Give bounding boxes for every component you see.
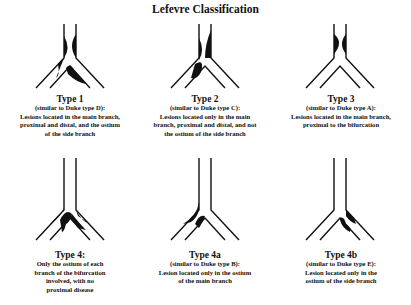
caption-line: Lesion located only in the ostium xyxy=(135,269,275,278)
type-label: Type 4a xyxy=(135,250,275,260)
caption-line: (similar to Duke type D): xyxy=(0,104,140,113)
lesion-main-proximal-left xyxy=(334,34,339,54)
lesion-side-ostium-right xyxy=(70,214,86,230)
caption-type-1: Type 1 (similar to Duke type D): Lesions… xyxy=(0,94,140,138)
vessel-type-1 xyxy=(30,24,110,92)
lesion-side-ostium xyxy=(66,65,86,84)
caption-line: proximal disease xyxy=(0,286,140,295)
lesion-side-ostium-outer xyxy=(346,210,356,224)
caption-line: branch of the bifurcation xyxy=(0,269,140,278)
lesion-main-distal xyxy=(205,30,211,58)
caption-line: proximal and distal, and the ostium xyxy=(0,121,140,130)
caption-line: (similar to Duke type A): xyxy=(271,104,411,113)
lesion-main-ostium xyxy=(56,58,64,78)
lesion-main-distal xyxy=(72,34,76,58)
caption-type-2: Type 2 (similar to Duke type C): Lesions… xyxy=(135,94,275,138)
vessel-type-4a xyxy=(165,158,245,246)
type-label: Type 2 xyxy=(135,94,275,104)
vessel-type-4 xyxy=(30,158,110,246)
vessel-walls xyxy=(36,24,104,88)
caption-line: Lesion located only in the xyxy=(271,269,411,278)
caption-line: Lesions located only in the main xyxy=(135,113,275,122)
type-label: Type 1 xyxy=(0,94,140,104)
caption-line: (similar to Duke type C): xyxy=(135,104,275,113)
vessel-walls xyxy=(171,24,239,88)
caption-line: Lesions located in the main branch, xyxy=(271,113,411,122)
type-label: Type 4: xyxy=(0,250,140,260)
caption-line: proximal to the bifurcation xyxy=(271,121,411,130)
caption-line: of the side branch xyxy=(0,130,140,139)
vessel-walls xyxy=(306,158,374,240)
lesion-main-proximal-right xyxy=(342,34,346,54)
caption-line: (similar to Duke type E): xyxy=(271,260,411,269)
caption-type-4: Type 4: Only the ostium of each branch o… xyxy=(0,250,140,294)
caption-type-3: Type 3 (similar to Duke type A): Lesions… xyxy=(271,94,411,130)
vessel-walls xyxy=(306,24,374,88)
lesion-main-proximal xyxy=(64,36,68,58)
vessel-type-2 xyxy=(165,24,245,92)
lesion-side-ostium-inner xyxy=(340,218,351,232)
caption-type-4a: Type 4a (similar to Duke type B): Lesion… xyxy=(135,250,275,286)
vessel-walls xyxy=(36,158,104,240)
type-label: Type 3 xyxy=(271,94,411,104)
type-label: Type 4b xyxy=(271,250,411,260)
vessel-type-4b xyxy=(300,158,380,246)
caption-type-4b: Type 4b (similar to Duke type E): Lesion… xyxy=(271,250,411,286)
caption-line: of the main branch xyxy=(135,277,275,286)
vessel-walls xyxy=(171,158,239,240)
caption-line: involved, with no xyxy=(0,277,140,286)
caption-line: the ostium of the side branch xyxy=(135,130,275,139)
caption-line: Only the ostium of each xyxy=(0,260,140,269)
caption-line: branch, proximal and distal, and not xyxy=(135,121,275,130)
lesion-main-proximal xyxy=(199,38,202,60)
caption-line: ostium of the side branch xyxy=(271,277,411,286)
lesion-side-ostium-left xyxy=(60,212,72,232)
caption-line: Lesions located in the main branch, xyxy=(0,113,140,122)
lesion-inner-ostium xyxy=(195,216,205,228)
diagram-title: Lefevre Classification xyxy=(0,3,411,15)
caption-line: (similar to Duke type B): xyxy=(135,260,275,269)
vessel-type-3 xyxy=(300,24,380,92)
